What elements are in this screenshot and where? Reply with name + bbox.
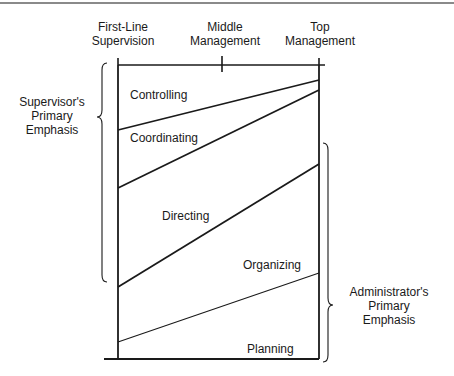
- level-label-line: Management: [185, 34, 265, 48]
- level-label-line: Management: [280, 34, 360, 48]
- level-label-line: First-Line: [83, 20, 163, 34]
- brace-label-line: Administrator's: [342, 285, 436, 299]
- level-label-first-line: First-Line Supervision: [83, 20, 163, 48]
- function-label-organizing: Organizing: [243, 258, 301, 272]
- administrator-brace: [323, 143, 333, 362]
- function-label-controlling: Controlling: [130, 88, 187, 102]
- level-label-line: Middle: [185, 20, 265, 34]
- level-label-top: Top Management: [280, 20, 360, 48]
- brace-label-line: Emphasis: [342, 313, 436, 327]
- brace-label-line: Primary: [342, 299, 436, 313]
- supervisor-brace: [97, 63, 107, 282]
- function-label-directing: Directing: [162, 209, 209, 223]
- diagram-frame: [104, 65, 319, 359]
- level-label-line: Top: [280, 20, 360, 34]
- brace-label-line: Supervisor's: [12, 95, 92, 109]
- supervisor-emphasis-label: Supervisor's Primary Emphasis: [12, 95, 92, 137]
- brace-label-line: Emphasis: [12, 123, 92, 137]
- organizing-planning-boundary: [118, 273, 319, 342]
- function-boundaries: [118, 80, 319, 342]
- level-label-line: Supervision: [83, 34, 163, 48]
- function-label-planning: Planning: [247, 342, 294, 356]
- level-axis: [118, 56, 325, 72]
- level-label-middle: Middle Management: [185, 20, 265, 48]
- administrator-emphasis-label: Administrator's Primary Emphasis: [342, 285, 436, 327]
- brace-label-line: Primary: [12, 109, 92, 123]
- function-label-coordinating: Coordinating: [130, 131, 198, 145]
